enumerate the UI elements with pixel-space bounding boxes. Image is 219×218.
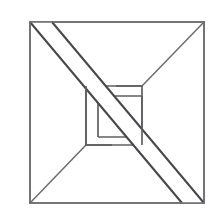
figure-container: 3.	[0, 0, 219, 218]
geometric-line-drawing	[0, 0, 219, 218]
